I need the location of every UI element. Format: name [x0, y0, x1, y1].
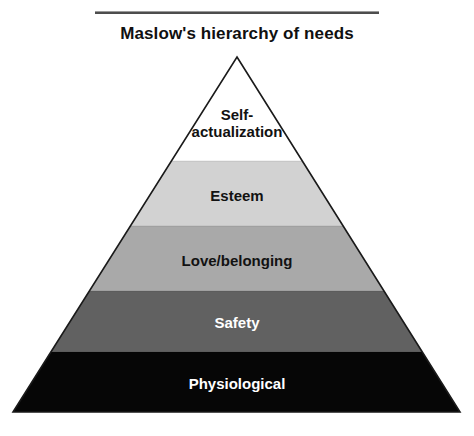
pyramid-bands	[0, 57, 474, 412]
pyramid-band-self-actualization	[0, 57, 474, 161]
pyramid-band-separator	[0, 226, 474, 227]
pyramid-band-physiological	[0, 352, 474, 412]
pyramid-band-separator	[0, 291, 474, 292]
pyramid-svg	[0, 0, 474, 436]
pyramid-band-esteem	[0, 161, 474, 226]
pyramid-band-love-belonging	[0, 226, 474, 291]
pyramid-band-separator	[0, 161, 474, 162]
pyramid-diagram	[0, 0, 474, 436]
maslow-pyramid-figure: Maslow's hierarchy of needs Self- actual…	[0, 0, 474, 436]
pyramid-band-separator	[0, 352, 474, 353]
